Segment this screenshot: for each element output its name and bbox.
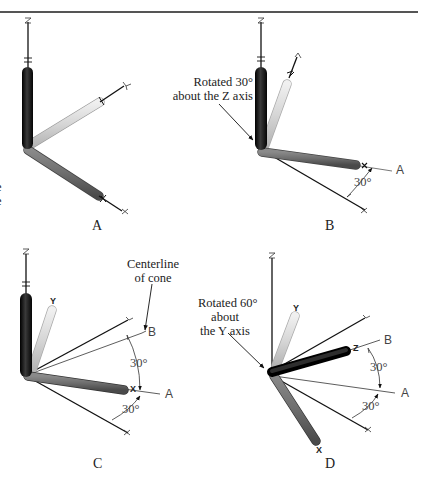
callout-line-2: about [198, 311, 252, 325]
ref-tag-b: B [148, 326, 156, 339]
axis-tag-x: X [130, 385, 136, 395]
ref-tag-a: A [396, 164, 404, 177]
rotated-60-y-callout: Rotated 60° about the Y axis [198, 297, 252, 338]
angle-label-lower: 30° [362, 400, 380, 414]
panel-a-graphics [22, 18, 131, 214]
panel-label-a: A [92, 218, 102, 233]
figure-canvas: A Rotated 30° about the Z axis 30° A B C… [0, 0, 423, 495]
axis-tag-z: Z [353, 344, 359, 354]
ref-tag-b: B [384, 334, 392, 347]
angle-label-lower: 30° [122, 403, 140, 417]
callout-line-1: Rotated 30° [170, 76, 253, 90]
angle-label-upper: 30° [130, 357, 148, 371]
ref-tag-a: A [401, 387, 409, 400]
panel-label-b: B [325, 218, 334, 233]
callout-line-1: Centerline [120, 258, 186, 272]
centerline-of-cone-callout: Centerline of cone [120, 258, 186, 286]
angle-label-upper: 30° [370, 361, 388, 375]
cropped-text-fragment: e [0, 195, 2, 209]
angle-label-30: 30° [354, 176, 372, 190]
callout-line-2: about the Z axis [170, 90, 253, 104]
callout-line-3: the Y axis [198, 325, 252, 339]
panel-label-c: C [93, 456, 102, 471]
ref-tag-a: A [165, 388, 173, 401]
rotated-30-z-callout: Rotated 30° about the Z axis [170, 76, 253, 104]
cropped-text-fragment: e [0, 181, 2, 195]
axis-tag-x: X [316, 446, 322, 456]
callout-line-2: of cone [120, 272, 186, 286]
panel-label-d: D [325, 456, 335, 471]
callout-line-1: Rotated 60° [198, 297, 252, 311]
axis-tag-y: Y [293, 304, 299, 314]
axis-tag-y: Y [50, 297, 56, 307]
